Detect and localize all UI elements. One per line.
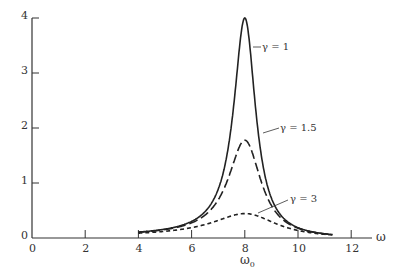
- resonance-chart: [0, 0, 404, 275]
- axes: [32, 18, 372, 238]
- omega0-subscript: 0: [250, 260, 255, 269]
- y-tick-label: 0: [21, 230, 28, 241]
- omega0-annotation: ω0: [240, 255, 255, 270]
- label-gamma-1-5: γ = 1.5: [280, 123, 317, 133]
- omega0-symbol: ω: [240, 253, 250, 267]
- leader-gamma15: [263, 128, 279, 133]
- y-tick-label: 3: [21, 65, 28, 76]
- x-tick-label: 12: [345, 243, 359, 254]
- y-tick-label: 1: [21, 175, 28, 186]
- x-tick-label: 4: [135, 243, 142, 254]
- curve-gamma-3: [138, 214, 332, 235]
- x-tick-label: 2: [82, 243, 89, 254]
- y-tick-label: 2: [21, 120, 28, 131]
- x-tick-label: 0: [29, 243, 36, 254]
- y-tick-label: 4: [21, 10, 28, 21]
- label-gamma-1: γ = 1: [262, 42, 289, 52]
- x-axis-label-omega: ω: [376, 232, 386, 242]
- curve-gamma-1-5: [138, 140, 332, 234]
- label-gamma-3: γ = 3: [290, 194, 317, 204]
- x-tick-label: 6: [189, 243, 196, 254]
- x-tick-label: 10: [292, 243, 306, 254]
